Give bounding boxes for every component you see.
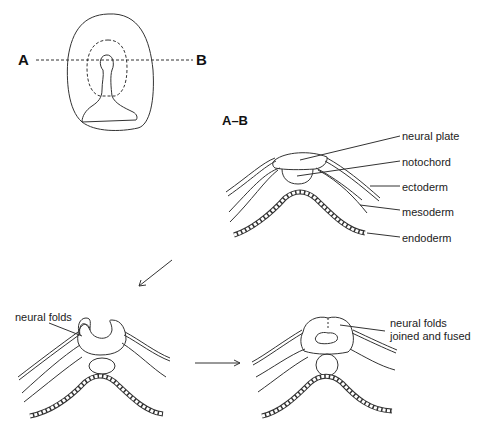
notochord-oval — [89, 358, 115, 374]
neural-groove-keyhole — [82, 55, 137, 122]
diagram-canvas — [0, 0, 485, 441]
label-neural-plate: neural plate — [402, 130, 460, 143]
endoderm-shape — [234, 192, 365, 235]
label-a: A — [18, 51, 29, 68]
arrow-right — [195, 360, 240, 366]
neural-folds-shape — [78, 318, 126, 355]
notochord-circle — [316, 354, 338, 376]
label-notochord: notochord — [402, 156, 451, 169]
neural-plate-outline-dashed — [87, 40, 127, 96]
label-b: B — [196, 51, 207, 68]
label-neural-folds: neural folds — [15, 311, 72, 324]
arrow-down-left — [139, 260, 172, 286]
embryo-top-view — [36, 14, 193, 131]
section-neural-tube-stage — [252, 317, 397, 416]
label-endoderm: endoderm — [402, 232, 452, 245]
label-neural-folds-fused-line1: neural folds — [390, 317, 447, 330]
embryo-outline — [67, 14, 153, 131]
label-neural-folds-fused-line2: joined and fused — [390, 330, 471, 343]
label-ectoderm: ectoderm — [402, 181, 448, 194]
section-label-a-b: A–B — [222, 113, 248, 128]
label-mesoderm: mesoderm — [402, 206, 454, 219]
neural-tube-shape — [301, 317, 354, 354]
section-neural-plate-stage — [226, 136, 400, 237]
notochord-shape — [282, 169, 313, 184]
section-neural-folds-stage — [18, 318, 170, 416]
